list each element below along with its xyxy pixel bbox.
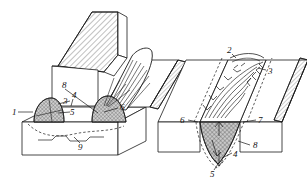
electrode-block-side-face [118, 12, 127, 58]
callout-3-right: 3 [267, 66, 273, 76]
callout-5-left: 5 [70, 107, 75, 117]
callout-8-right: 8 [253, 140, 258, 150]
weld-crystallization-diagram: 1 3 4 5 6 8 9 [0, 0, 307, 181]
right-right-plate-front [240, 122, 282, 152]
callout-9-left: 9 [78, 142, 83, 152]
callout-8-left: 8 [62, 80, 67, 90]
callout-1-left: 1 [12, 107, 17, 117]
callout-4-right: 4 [233, 149, 238, 159]
nozzle-box [52, 66, 98, 106]
callout-6-left: 6 [120, 102, 125, 112]
left-plate-front-face [22, 122, 118, 155]
callout-7-right: 7 [258, 115, 263, 125]
callout-3-left: 3 [62, 96, 68, 106]
callout-6-right: 6 [180, 115, 185, 125]
callout-4-left: 4 [72, 90, 77, 100]
right-left-plate-front [158, 122, 200, 152]
callout-5-right: 5 [210, 169, 215, 179]
callout-2-right: 2 [227, 45, 232, 55]
